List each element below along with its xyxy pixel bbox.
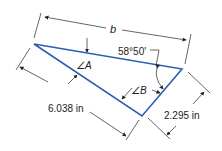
angle-given-label: 58°50' [118,46,146,57]
side-left-label: 6.038 in [48,103,84,114]
dimension-b [34,13,191,64]
angle-B-label: ∠B [131,85,147,96]
triangle-diagram: b 58°50' ∠A ∠B 6.038 in 2.295 in [0,0,222,151]
angle-A-label: ∠A [76,60,92,71]
side-right-label: 2.295 in [164,110,200,121]
side-b-label: b [110,23,116,35]
dimension-right [148,72,210,139]
